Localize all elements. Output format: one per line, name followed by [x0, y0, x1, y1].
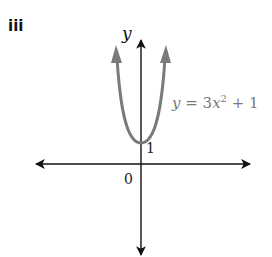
- graph-canvas: iii y 1 0 y = 3x2 + 1: [0, 0, 272, 257]
- curve-arrow-left-icon: [111, 45, 122, 63]
- curve-arrow-right-icon: [160, 45, 171, 63]
- equation-rest: + 1: [227, 94, 259, 112]
- equation-label: y = 3x2 + 1: [171, 93, 259, 112]
- origin-label: 0: [124, 171, 133, 187]
- y-axis-label: y: [121, 23, 132, 43]
- y-intercept-label: 1: [146, 140, 155, 156]
- part-label: iii: [8, 17, 23, 35]
- equation-eq: = 3: [180, 94, 212, 112]
